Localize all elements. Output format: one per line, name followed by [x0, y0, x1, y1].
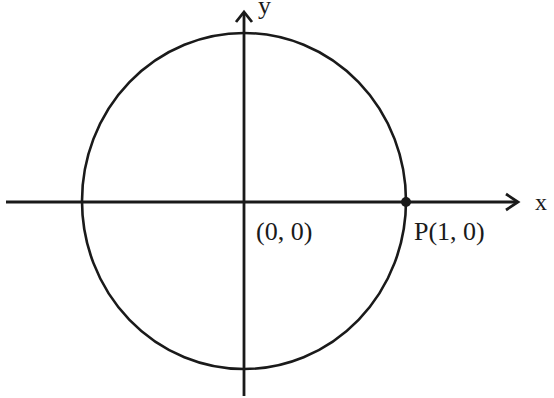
x-axis-label: x — [535, 189, 547, 215]
y-axis-label: y — [258, 0, 271, 20]
y-axis — [236, 12, 252, 396]
origin-label: (0, 0) — [256, 217, 312, 246]
point-p-marker — [401, 197, 411, 207]
unit-circle-diagram: y x (0, 0) P(1, 0) — [0, 0, 554, 398]
point-p-label: P(1, 0) — [414, 217, 485, 246]
